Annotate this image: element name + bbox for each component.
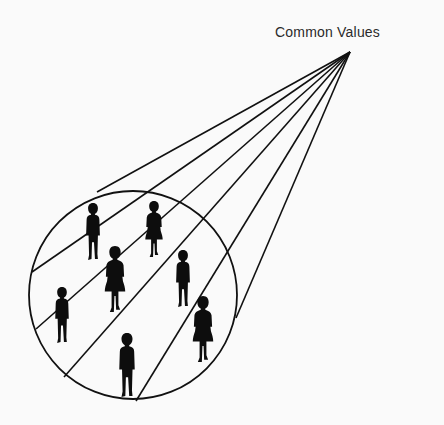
boy-silhouette-icon	[176, 250, 190, 307]
values-cone-diagram	[0, 0, 444, 425]
converging-lines	[32, 52, 350, 401]
converging-line	[36, 52, 350, 329]
girl-silhouette-icon	[193, 296, 213, 362]
people-figures	[55, 201, 213, 397]
girl-silhouette-icon	[145, 201, 162, 257]
boy-silhouette-icon	[86, 203, 100, 260]
converging-line	[136, 52, 350, 401]
girl-silhouette-icon	[105, 246, 125, 312]
boy-silhouette-icon	[119, 333, 134, 397]
converging-line	[97, 52, 350, 192]
boy-silhouette-icon	[55, 287, 69, 343]
